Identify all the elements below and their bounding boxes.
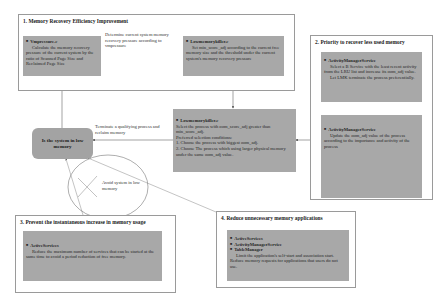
reduce-apps-box: ActiveServices ActivityManagerService Ta…: [227, 230, 349, 281]
lmk-threshold-box: Lowmemorykiller.c Set min_score_adj acco…: [183, 36, 284, 76]
lmk-threshold-text: Set min_score_adj according to the curre…: [186, 45, 281, 62]
vmpressure-box: Vmpressure.c Calculate the memory recove…: [23, 36, 101, 76]
determine-pressure-label: Determine current system memory recovery…: [105, 32, 173, 49]
low-memory-decision: Is the system in low memory: [32, 128, 93, 159]
section-1-title: 1. Memory Recovery Efficiency Improvemen…: [23, 18, 128, 24]
reduce-apps-text: Limit the application's self-start and a…: [230, 253, 346, 270]
lmk-select-line-4: 2. Choose The process which using larger…: [176, 146, 293, 157]
vmpressure-text: Calculate the memory recovery pressure o…: [26, 45, 98, 67]
active-services-box: ActiveServices Reduce the maximum number…: [23, 231, 162, 281]
ams-update-box: ActivityManagerService Update the oom_ad…: [321, 115, 422, 198]
active-services-text: Reduce the maximum number of services th…: [26, 249, 159, 260]
section-2-title: 2. Priority to recover less used memory: [315, 39, 405, 45]
ams-select-text-2: Let LMK terminate the process preferenti…: [324, 75, 419, 81]
terminate-label: Terminate a qualifying process and recla…: [95, 124, 173, 135]
avoid-low-memory-label: Avoid system in low memory: [102, 180, 148, 191]
section-3-title: 3. Prevent the instantaneous increase in…: [20, 219, 146, 225]
lmk-select-line-1: Select the process with oom_score_adj gr…: [176, 124, 293, 135]
ams-update-text: Update the oom_adj value of the process …: [324, 133, 419, 150]
ams-select-box: ActivityManagerService Select a B Servic…: [321, 52, 422, 102]
ams-select-text-1: Select a B Service with the least recent…: [324, 64, 419, 75]
lmk-select-box: Lowmemorykiller.c Select the process wit…: [173, 109, 296, 172]
section-4-title: 4. Reduce unnecessary memory application…: [221, 215, 323, 221]
